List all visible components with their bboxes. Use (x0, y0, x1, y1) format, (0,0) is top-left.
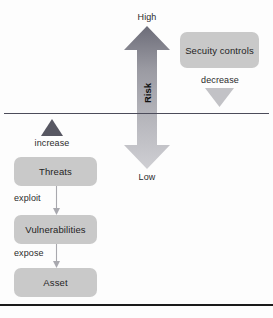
security-controls-box: Secuity controls (180, 32, 259, 68)
decrease-label: decrease (189, 76, 251, 85)
threats-box: Threats (14, 157, 97, 186)
asset-box: Asset (14, 268, 97, 297)
bottom-divider (0, 304, 273, 306)
risk-threshold-line (4, 113, 269, 114)
scale-high-label: High (127, 13, 167, 22)
increase-triangle-icon (41, 119, 63, 140)
diagram-canvas: Risk High Low Secuity controls decrease … (0, 0, 273, 318)
risk-axis-label: Risk (127, 79, 167, 107)
exploit-label: exploit (14, 194, 41, 203)
threats-to-vulnerabilities-connector-icon (52, 186, 61, 219)
scale-low-label: Low (127, 173, 167, 182)
vulnerabilities-box: Vulnerabilities (14, 215, 97, 244)
expose-label: expose (14, 249, 44, 258)
vulnerabilities-to-asset-connector-icon (52, 244, 61, 272)
decrease-triangle-icon (205, 88, 234, 111)
increase-label: increase (26, 139, 78, 148)
